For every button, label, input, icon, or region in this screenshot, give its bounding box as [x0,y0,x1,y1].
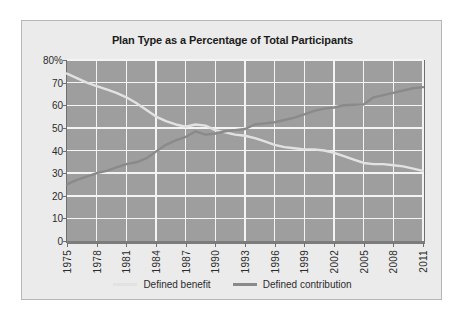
chart-legend: Defined benefitDefined contribution [22,279,443,290]
x-axis-tick-label: 1990 [210,250,221,273]
x-axis-tick-mark [186,243,187,247]
x-axis-tick-label: 2008 [388,250,399,273]
plot-area [67,60,425,241]
chart-figure: Plan Type as a Percentage of Total Parti… [0,0,462,321]
x-axis-tick-mark [304,243,305,247]
x-axis-tick-mark [393,243,394,247]
y-axis-tick-label: 80% [23,55,63,66]
x-axis-tick-mark [67,243,68,247]
x-axis-tick-mark [245,243,246,247]
x-axis-tick-label: 2011 [418,250,429,273]
x-axis-tick-label: 1984 [151,250,162,273]
x-axis-tick-mark [126,243,127,247]
x-axis-tick-label: 1993 [240,250,251,273]
legend-label: Defined benefit [143,279,210,290]
chart-panel: Plan Type as a Percentage of Total Parti… [21,20,442,300]
x-axis-line [67,241,425,244]
x-axis-tick-label: 2005 [359,250,370,273]
y-axis-tick-label: 10 [23,213,63,224]
y-axis-tick-label: 0 [23,236,63,247]
x-axis-tick-mark [364,243,365,247]
x-axis-tick-mark [275,243,276,247]
series-lines [67,60,423,241]
y-axis-tick-label: 40 [23,145,63,156]
x-axis-tick-label: 1975 [62,250,73,273]
x-axis-tick-label: 1978 [92,250,103,273]
x-axis-tick-mark [423,243,424,247]
x-axis-tick-mark [215,243,216,247]
legend-entry[interactable]: Defined contribution [233,279,352,290]
x-axis-tick-label: 1981 [121,250,132,273]
x-axis-tick-mark [97,243,98,247]
legend-label: Defined contribution [263,279,352,290]
x-axis-tick-label: 1999 [299,250,310,273]
x-axis-tick-label: 2002 [329,250,340,273]
legend-swatch [233,283,257,286]
x-axis-tick-mark [334,243,335,247]
y-axis-tick-label: 30 [23,168,63,179]
y-axis-tick-labels: 80%706050403020100 [22,21,63,301]
series-line [67,74,423,171]
x-axis-tick-mark [156,243,157,247]
y-axis-tick-label: 50 [23,122,63,133]
y-axis-tick-label: 70 [23,77,63,88]
legend-swatch [113,283,137,286]
chart-title: Plan Type as a Percentage of Total Parti… [22,34,443,46]
y-axis-tick-label: 60 [23,100,63,111]
x-axis-tick-label: 1987 [181,250,192,273]
legend-entry[interactable]: Defined benefit [113,279,210,290]
y-axis-tick-label: 20 [23,190,63,201]
x-axis-tick-label: 1996 [270,250,281,273]
